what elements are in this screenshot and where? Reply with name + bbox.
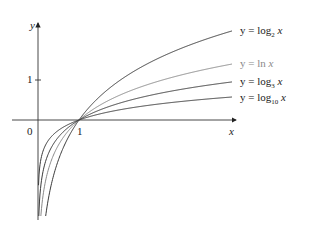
curve-y-log10-x [39,97,233,185]
curves [39,31,233,216]
x-axis-label: x [229,126,234,137]
curve-y-ln-x [41,64,232,216]
curve-y-log3-x [39,82,232,216]
y-axis-label: y [30,20,35,31]
legend-label-ln: y = ln x [240,58,273,69]
x-tick-label-1: 1 [77,126,83,137]
legend-label-log3: y = log3 x [240,76,282,87]
x-tick-label-0: 0 [27,126,33,137]
legend-label-log10: y = log10 x [240,92,286,103]
legend-label-log2: y = log2 x [240,25,282,36]
y-tick-label-1: 1 [27,74,33,85]
